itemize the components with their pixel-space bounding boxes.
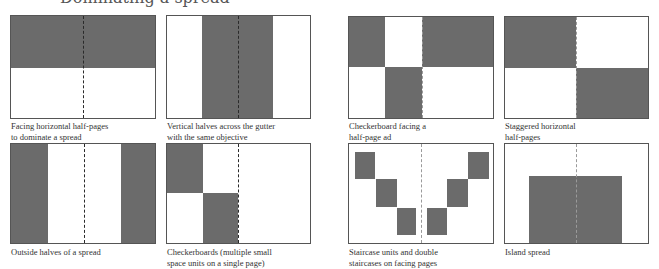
ad-space-checker-unit-2 bbox=[203, 193, 238, 244]
caption-facing-horizontal: Facing horizontal half-pages to dominate… bbox=[11, 121, 108, 143]
gutter-line bbox=[421, 144, 422, 243]
caption-line: half-pages bbox=[505, 132, 576, 143]
ad-space-checker-bottom bbox=[385, 67, 422, 119]
gutter-line bbox=[576, 144, 577, 243]
ad-space-outside-right bbox=[121, 144, 156, 243]
spread-diagram-vertical-halves bbox=[166, 15, 311, 119]
gutter-line bbox=[84, 144, 85, 243]
gutter-line bbox=[422, 17, 423, 118]
caption-staggered-horizontal: Staggered horizontal half-pages bbox=[505, 121, 576, 143]
spread-diagram-checkerboard-half-page bbox=[348, 16, 494, 119]
spread-diagram-outside-halves bbox=[10, 143, 156, 244]
ad-space-stair-right-2 bbox=[447, 179, 468, 207]
ad-space-top-left-half bbox=[505, 17, 576, 68]
caption-line: Vertical halves across the gutter bbox=[167, 121, 275, 132]
caption-line: Checkerboard facing a bbox=[349, 121, 426, 132]
spread-diagram-staircase bbox=[348, 143, 494, 244]
ad-space-bottom-right-half bbox=[576, 68, 649, 119]
caption-line: Facing horizontal half-pages bbox=[11, 121, 108, 132]
ad-space-stair-right-1 bbox=[427, 208, 447, 235]
caption-line: Checkerboards (multiple small bbox=[167, 247, 272, 258]
caption-staircase: Staircase units and double staircases on… bbox=[349, 247, 438, 269]
ad-space-outside-left bbox=[11, 144, 48, 243]
caption-line: Staggered horizontal bbox=[505, 121, 576, 132]
caption-outside-halves: Outside halves of a spread bbox=[11, 247, 101, 258]
caption-line: Staircase units and double bbox=[349, 247, 438, 258]
ad-space-stair-left-3 bbox=[397, 208, 416, 235]
ad-space-stair-left-2 bbox=[376, 179, 397, 207]
caption-checkerboard-half-page: Checkerboard facing a half-page ad bbox=[349, 121, 426, 143]
gutter-line bbox=[83, 16, 84, 118]
spread-diagram-island bbox=[504, 143, 649, 244]
caption-line: space units on a single page) bbox=[167, 258, 272, 269]
ad-space-stair-right-3 bbox=[468, 152, 489, 179]
caption-island: Island spread bbox=[505, 247, 550, 258]
ad-space-half-page-top-right bbox=[422, 17, 494, 67]
ad-space-stair-left-1 bbox=[355, 152, 375, 179]
spread-diagram-checkerboards bbox=[166, 143, 311, 244]
gutter-line bbox=[238, 144, 239, 243]
figure-header: Dominating a spread bbox=[60, 0, 230, 7]
caption-line: staircases on facing pages bbox=[349, 258, 438, 269]
caption-vertical-halves: Vertical halves across the gutter with t… bbox=[167, 121, 275, 143]
ad-space-checker-unit-1 bbox=[167, 144, 203, 193]
caption-line: Outside halves of a spread bbox=[11, 247, 101, 258]
spread-diagram-staggered-horizontal bbox=[504, 16, 649, 119]
caption-line: with the same objective bbox=[167, 132, 275, 143]
caption-line: Island spread bbox=[505, 247, 550, 258]
ad-space-checker-top-left bbox=[349, 17, 385, 67]
gutter-line bbox=[576, 17, 577, 118]
spread-diagram-facing-horizontal bbox=[10, 15, 156, 119]
gutter-line bbox=[238, 16, 239, 118]
caption-line: to dominate a spread bbox=[11, 132, 108, 143]
caption-checkerboards: Checkerboards (multiple small space unit… bbox=[167, 247, 272, 269]
caption-line: half-page ad bbox=[349, 132, 426, 143]
